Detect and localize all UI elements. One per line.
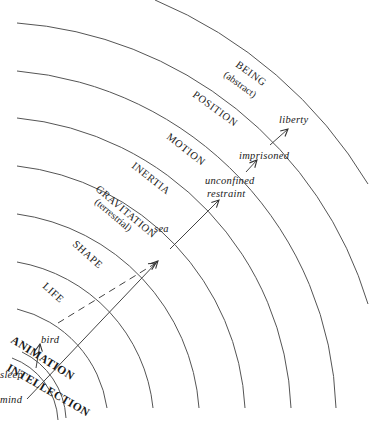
- arcs: [12, 0, 368, 420]
- item-mind: mind: [0, 394, 23, 405]
- label-shape: SHAPE: [71, 238, 105, 270]
- label-motion: MOTION: [165, 131, 208, 168]
- label-life: LIFE: [41, 280, 67, 305]
- item-liberty: liberty: [279, 114, 309, 125]
- label-inertia: INERTIA: [130, 160, 173, 197]
- label-position: POSITION: [191, 89, 240, 129]
- item-unconfined: unconfined: [205, 175, 255, 186]
- arc-position: [17, 23, 368, 304]
- item-imprisoned: imprisoned: [239, 150, 290, 161]
- item-restraint: restraint: [207, 188, 246, 199]
- arrow-sea-to-restraint: [170, 200, 219, 249]
- arrow-imprisoned-to-liberty: [270, 129, 288, 145]
- item-sleep: sleep: [0, 369, 23, 380]
- concentric-category-diagram: INTELLECTION ANIMATION LIFE SHAPE GRAVIT…: [0, 0, 375, 426]
- item-sea: sea: [154, 223, 169, 234]
- category-labels: INTELLECTION ANIMATION LIFE SHAPE GRAVIT…: [5, 59, 269, 419]
- arrow-restraint-to-imprisoned: [246, 160, 257, 172]
- arrows: [27, 129, 288, 399]
- item-bird: bird: [41, 334, 60, 345]
